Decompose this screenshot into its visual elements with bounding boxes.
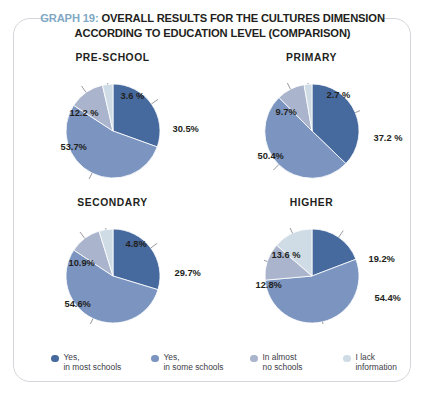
slice-value-label: 19.2%	[369, 254, 395, 264]
title-main: OVERALL RESULTS FOR THE CULTURES DIMENSI…	[99, 12, 385, 24]
graph-number: GRAPH 19:	[40, 12, 98, 24]
leader-line	[322, 322, 324, 324]
slice-value-label: 12.8%	[256, 280, 282, 290]
slice-value-label: 54.6%	[65, 299, 91, 309]
slice-value-label: 53.7%	[61, 142, 87, 152]
leader-line	[89, 319, 92, 324]
legend: Yes, in most schools Yes, in some school…	[13, 352, 411, 386]
pie-chart-higher: HIGHER 19.2%54.4%12.8%13.6 %	[212, 197, 411, 342]
legend-swatch-icon	[250, 355, 258, 363]
legend-item-yes-most-schools: Yes, in most schools	[51, 352, 121, 372]
slice-value-label: 30.5%	[173, 124, 199, 134]
slice-value-label: 37.2 %	[374, 133, 403, 143]
page-title: GRAPH 19: OVERALL RESULTS FOR THE CULTUR…	[0, 11, 425, 41]
leader-line	[355, 109, 360, 112]
slice-value-label: 9.7%	[276, 107, 297, 117]
leader-line	[264, 259, 267, 261]
leader-line	[286, 83, 290, 89]
legend-label: Yes, in most schools	[64, 352, 122, 372]
leader-line	[273, 164, 279, 170]
leader-line	[338, 231, 343, 238]
legend-swatch-icon	[51, 355, 59, 363]
legend-swatch-icon	[151, 355, 159, 363]
pie-chart-pre-school: PRE-SCHOOL 30.5%53.7%12.2 %3.6 %	[13, 52, 212, 197]
title-line-1: GRAPH 19: OVERALL RESULTS FOR THE CULTUR…	[0, 11, 425, 26]
pie-chart-secondary: SECONDARY 29.7%54.6%10.9%4.8%	[13, 197, 212, 342]
pie-canvas: 29.7%54.6%10.9%4.8%	[65, 228, 161, 324]
pie-svg	[264, 228, 360, 324]
legend-swatch-icon	[343, 355, 351, 363]
leader-line	[79, 232, 84, 238]
pie-canvas: 30.5%53.7%12.2 %3.6 %	[65, 83, 161, 179]
slice-value-label: 29.7%	[175, 268, 201, 278]
slice-value-label: 2.7 %	[327, 90, 351, 100]
title-line-2: ACCORDING TO EDUCATION LEVEL (COMPARISON…	[0, 26, 425, 41]
slice-value-label: 10.9%	[69, 258, 95, 268]
legend-label: Yes, in some schools	[164, 352, 224, 372]
leader-line	[151, 99, 158, 104]
leader-line	[150, 243, 156, 248]
slice-value-label: 12.2 %	[70, 108, 99, 118]
pie-svg	[65, 83, 161, 179]
pie-canvas: 19.2%54.4%12.8%13.6 %	[264, 228, 360, 324]
slice-value-label: 54.4%	[375, 293, 401, 303]
leader-line	[88, 173, 92, 179]
slice-value-label: 3.6 %	[121, 91, 145, 101]
leader-line	[289, 228, 292, 233]
graph-card: GRAPH 19: OVERALL RESULTS FOR THE CULTUR…	[0, 0, 425, 400]
slice-value-label: 13.6 %	[272, 250, 301, 260]
chart-title: PRIMARY	[212, 52, 411, 63]
legend-label: In almost no schools	[263, 352, 303, 372]
slice-value-label: 50.4%	[258, 151, 284, 161]
legend-label: I lack information	[356, 352, 397, 372]
pie-chart-primary: PRIMARY 37.2 %50.4%9.7%2.7 %	[212, 52, 411, 197]
leader-line	[81, 86, 86, 93]
chart-title: SECONDARY	[13, 197, 212, 208]
pie-canvas: 37.2 %50.4%9.7%2.7 %	[264, 83, 360, 179]
slice-value-label: 4.8%	[126, 239, 147, 249]
charts-grid: PRE-SCHOOL 30.5%53.7%12.2 %3.6 % PRIMARY…	[13, 52, 411, 342]
legend-item-almost-no-schools: In almost no schools	[250, 352, 303, 372]
chart-title: HIGHER	[212, 197, 411, 208]
chart-title: PRE-SCHOOL	[13, 52, 212, 63]
legend-item-i-lack-information: I lack information	[343, 352, 397, 372]
legend-item-yes-some-schools: Yes, in some schools	[151, 352, 224, 372]
